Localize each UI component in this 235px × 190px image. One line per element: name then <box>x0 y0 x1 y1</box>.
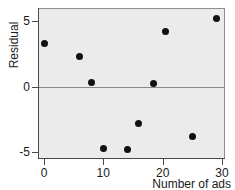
x-tick-20 <box>163 159 164 165</box>
y-tick-5 <box>32 21 38 22</box>
x-tick-10 <box>103 159 104 165</box>
y-tick-label-5: 5 <box>23 14 30 28</box>
y-tick-label--5: -5 <box>19 145 30 159</box>
data-point <box>41 40 48 47</box>
y-axis-line <box>38 8 39 159</box>
y-tick-0 <box>32 87 38 88</box>
plot-panel <box>38 8 225 159</box>
zero-reference-line <box>39 87 224 88</box>
data-point <box>189 133 196 140</box>
data-point <box>76 53 83 60</box>
chart-title <box>40 0 235 1</box>
y-axis-title: Residual <box>7 9 21 81</box>
y-tick--5 <box>32 152 38 153</box>
x-axis-line <box>38 158 225 159</box>
data-point <box>213 15 220 22</box>
x-tick-0 <box>44 159 45 165</box>
y-tick-label-0: 0 <box>23 80 30 94</box>
x-axis-title: Number of ads <box>0 177 231 190</box>
data-point <box>124 146 131 153</box>
data-point <box>100 145 107 152</box>
x-tick-30 <box>222 159 223 165</box>
residual-plot-figure: 50-5 0102030 Residual Number of ads <box>0 0 235 190</box>
